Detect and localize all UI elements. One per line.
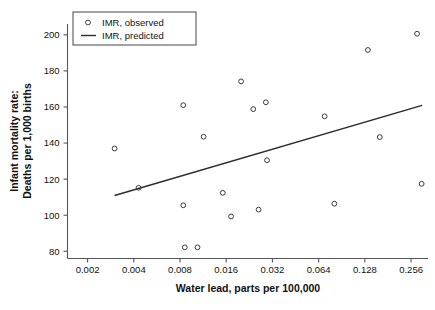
data-point-marker [256,207,261,212]
regression-line-segment [115,105,422,195]
legend-label-observed: IMR, observed [102,17,164,28]
data-point-marker [112,146,117,151]
x-tick-label: 0.064 [307,264,331,275]
chart-container: 80100120140160180200 0.0020.0040.0080.01… [0,0,435,310]
regression-line [115,105,422,195]
y-tick-label: 180 [44,65,60,76]
data-point-marker [332,201,337,206]
data-point-marker [239,79,244,84]
x-axis-ticks: 0.0020.0040.0080.0160.0320.0640.1280.256 [76,259,423,276]
y-tick-label: 160 [44,101,60,112]
data-point-marker [251,107,256,112]
y-axis-title: Infant mortality rate: Deaths per 1,000 … [8,83,33,199]
y-axis-title-line1: Infant mortality rate: [8,90,20,192]
data-points-group [112,31,424,249]
legend[interactable]: IMR, observed IMR, predicted [73,12,196,45]
data-point-marker [366,48,371,53]
data-point-marker [415,31,420,36]
data-point-marker [377,135,382,140]
x-tick-label: 0.256 [399,264,423,275]
y-tick-label: 80 [49,246,60,257]
x-tick-label: 0.016 [214,264,238,275]
y-tick-label: 120 [44,174,60,185]
y-axis-ticks: 80100120140160180200 [44,29,68,256]
x-tick-label: 0.004 [122,264,146,275]
y-tick-label: 140 [44,137,60,148]
x-axis-title: Water lead, parts per 100,000 [176,282,321,294]
y-axis-title-line2: Deaths per 1,000 births [21,83,33,199]
data-point-marker [181,203,186,208]
data-point-marker [265,158,270,163]
legend-label-predicted: IMR, predicted [102,30,164,41]
data-point-marker [182,245,187,250]
y-tick-label: 200 [44,29,60,40]
data-point-marker [201,134,206,139]
data-point-marker [419,181,424,186]
data-point-marker [229,214,234,219]
x-tick-label: 0.008 [168,264,192,275]
data-point-marker [220,190,225,195]
data-point-marker [181,103,186,108]
data-point-marker [263,100,268,105]
scatter-plot: 80100120140160180200 0.0020.0040.0080.01… [0,0,435,310]
axes [68,24,429,259]
data-point-marker [195,245,200,250]
data-point-marker [322,114,327,119]
y-tick-label: 100 [44,210,60,221]
x-tick-label: 0.032 [261,264,285,275]
x-tick-label: 0.002 [76,264,100,275]
x-tick-label: 0.128 [353,264,377,275]
